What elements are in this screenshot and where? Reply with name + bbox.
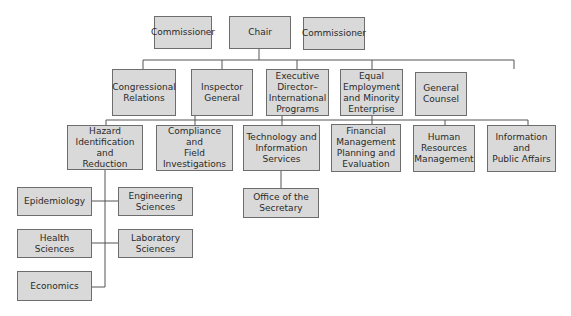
box-epidemiology: Epidemiology — [17, 187, 92, 216]
label: Planning and — [336, 148, 395, 159]
label: and Minority — [343, 93, 400, 104]
box-general-counsel: GeneralCounsel — [415, 72, 467, 116]
label: Human — [414, 132, 473, 143]
label: Commissioner — [302, 28, 366, 39]
box-hazard-identification: HazardIdentification andReduction — [67, 125, 143, 170]
box-office-of-the-secretary: Office of theSecretary — [243, 188, 319, 218]
label: Secretary — [253, 203, 308, 214]
label: Information and — [490, 132, 553, 154]
box-executive-director: ExecutiveDirector–InternationalPrograms — [266, 69, 329, 116]
label: Public Affairs — [490, 154, 553, 165]
label: Technology and — [246, 132, 316, 143]
box-engineering-sciences: EngineeringSciences — [118, 187, 193, 216]
label: Chair — [248, 27, 272, 38]
box-compliance: Compliance andFieldInvestigations — [156, 125, 233, 171]
label: Counsel — [423, 94, 459, 105]
box-commissioner-left: Commissioner — [154, 16, 212, 49]
label: Enterprise — [343, 104, 400, 115]
label: Laboratory — [131, 233, 180, 244]
label: Reduction — [70, 159, 140, 170]
label: Evaluation — [336, 159, 395, 170]
label: Congressional — [112, 82, 175, 93]
label: Hazard — [70, 126, 140, 137]
box-chair: Chair — [229, 16, 291, 49]
label: Employment — [343, 82, 400, 93]
label: Identification and — [70, 137, 140, 159]
label: Financial — [336, 126, 395, 137]
label: Information — [246, 143, 316, 154]
label: Office of the — [253, 192, 308, 203]
box-technology-information: Technology andInformationServices — [243, 125, 320, 171]
label: Sciences — [131, 244, 180, 255]
label: Services — [246, 154, 316, 165]
label: Inspector — [201, 82, 243, 93]
label: Health — [35, 233, 75, 244]
label: Epidemiology — [24, 196, 85, 207]
label: Resources — [414, 143, 473, 154]
box-inspector-general: InspectorGeneral — [191, 69, 253, 116]
label: Executive — [269, 71, 326, 82]
box-human-resources: HumanResourcesManagement — [413, 125, 475, 172]
box-equal-employment: EqualEmploymentand MinorityEnterprise — [340, 69, 403, 116]
label: Programs — [269, 104, 326, 115]
label: Management — [336, 137, 395, 148]
label: Equal — [343, 71, 400, 82]
label: Director– — [269, 82, 326, 93]
label: Commissioner — [151, 27, 215, 38]
label: Compliance and — [159, 126, 230, 148]
box-health-sciences: HealthSciences — [17, 229, 92, 258]
box-financial-management: FinancialManagementPlanning andEvaluatio… — [331, 124, 401, 172]
label: Sciences — [129, 202, 183, 213]
label: General — [423, 83, 459, 94]
box-economics: Economics — [17, 271, 92, 301]
box-commissioner-right: Commissioner — [303, 17, 365, 50]
label: Management — [414, 154, 473, 165]
label: Economics — [30, 281, 78, 292]
label: Relations — [112, 93, 175, 104]
box-laboratory-sciences: LaboratorySciences — [118, 229, 193, 258]
label: Investigations — [159, 159, 230, 170]
label: General — [201, 93, 243, 104]
box-information-public-affairs: Information andPublic Affairs — [487, 125, 556, 172]
label: Engineering — [129, 191, 183, 202]
label: Field — [159, 148, 230, 159]
box-congressional-relations: CongressionalRelations — [112, 69, 176, 116]
label: International — [269, 93, 326, 104]
label: Sciences — [35, 244, 75, 255]
